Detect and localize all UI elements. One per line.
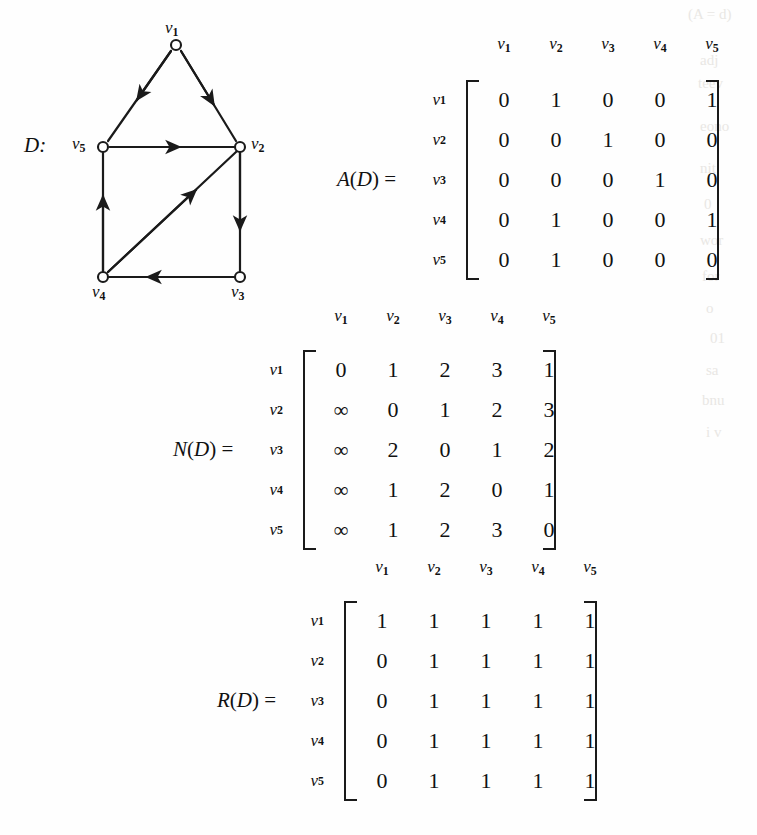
matrix-R-colhead-3: v3: [460, 557, 512, 579]
matrix-A-cell: 0: [530, 120, 582, 160]
matrix-R-cell: 1: [564, 681, 616, 721]
matrix-N-cell: ∞: [315, 430, 367, 470]
matrix-N-rowhead-4: v4: [241, 470, 283, 510]
matrix-A-cell: 1: [634, 160, 686, 200]
matrix-A-cell: 1: [530, 240, 582, 280]
matrix-A-row: 0 1 0 0 1: [478, 200, 738, 240]
matrix-N-cell: 1: [523, 350, 575, 390]
matrix-R-rowhead-1: v1: [282, 601, 324, 641]
matrix-R-rowhead-2: v2: [282, 641, 324, 681]
matrix-A-colhead-1: v1: [478, 34, 530, 56]
matrix-A-column-headers: v1 v2 v3 v4 v5: [478, 34, 738, 56]
vertex-label-v2: v2: [251, 134, 265, 156]
matrix-N-cell: 1: [471, 430, 523, 470]
matrix-R-cell: 1: [564, 641, 616, 681]
matrix-A-cell: 0: [634, 240, 686, 280]
matrix-A-cell: 0: [634, 80, 686, 120]
matrix-N-cell: 3: [471, 350, 523, 390]
bleed-through-text: i v: [706, 424, 721, 441]
matrix-R-cell: 1: [512, 721, 564, 761]
figure-page: (A = d) adj teev eono nit 0 wor for o 01…: [0, 0, 757, 835]
matrix-N-column-headers: v1 v2 v3 v4 v5: [315, 306, 575, 328]
matrix-A-grid: 0 1 0 0 1 0 0 1 0 0 0 0 0 1 0 0: [478, 80, 738, 280]
matrix-N-cell: ∞: [315, 470, 367, 510]
matrix-R-cell: 0: [356, 761, 408, 801]
matrix-R-rowhead-3: v3: [282, 681, 324, 721]
matrix-R-cell: 1: [564, 761, 616, 801]
matrix-A-rowhead-1: v1: [404, 80, 446, 120]
matrix-A-colhead-2: v2: [530, 34, 582, 56]
matrix-R-cell: 1: [460, 681, 512, 721]
digraph-figure: D:: [0, 0, 320, 310]
matrix-R-cell: 1: [408, 681, 460, 721]
matrix-R-row-headers: v1 v2 v3 v4 v5: [282, 601, 324, 801]
matrix-A-cell: 0: [634, 200, 686, 240]
matrix-A-cell: 0: [686, 120, 738, 160]
vertex-v3: [235, 272, 245, 282]
matrix-A-row-headers: v1 v2 v3 v4 v5: [404, 80, 446, 280]
matrix-N-row: ∞ 1 2 0 1: [315, 470, 575, 510]
matrix-R-cell: 1: [512, 601, 564, 641]
matrix-N-cell: 1: [367, 470, 419, 510]
matrix-N-cell: 2: [523, 430, 575, 470]
matrix-R-cell: 1: [408, 761, 460, 801]
matrix-R-cell: 0: [356, 721, 408, 761]
bleed-through-text: (A = d): [688, 6, 731, 23]
bleed-through-text: 01: [710, 330, 725, 347]
matrix-N-colhead-1: v1: [315, 306, 367, 328]
matrix-R-name: R(D) =: [217, 688, 276, 713]
bleed-through-text: sa: [706, 362, 719, 379]
matrix-R-cell: 1: [408, 641, 460, 681]
matrix-N-cell: 3: [523, 390, 575, 430]
matrix-R-cell: 1: [564, 601, 616, 641]
matrix-N-cell: 0: [523, 510, 575, 550]
matrix-N-grid: 0 1 2 3 1 ∞ 0 1 2 3 ∞ 2 0 1 2 ∞: [315, 350, 575, 550]
matrix-A-cell: 1: [530, 200, 582, 240]
matrix-A-cell: 0: [582, 80, 634, 120]
matrix-N-cell: 1: [367, 510, 419, 550]
matrix-A-cell: 0: [478, 80, 530, 120]
matrix-R-cell: 1: [460, 761, 512, 801]
matrix-R-cell: 1: [460, 601, 512, 641]
matrix-N-cell: 3: [471, 510, 523, 550]
matrix-A-cell: 0: [478, 240, 530, 280]
vertex-label-v3: v3: [231, 282, 245, 304]
matrix-A-cell: 0: [478, 120, 530, 160]
edge-arrow-v1-v5: [137, 51, 171, 100]
matrix-A-rowhead-5: v5: [404, 240, 446, 280]
matrix-N-cell: 0: [315, 350, 367, 390]
bleed-through-text: o: [706, 300, 714, 317]
matrix-N-cell: 1: [523, 470, 575, 510]
matrix-A-cell: 0: [582, 160, 634, 200]
matrix-N-cell: 2: [419, 470, 471, 510]
matrix-N-cell: ∞: [315, 510, 367, 550]
matrix-A-rowhead-4: v4: [404, 200, 446, 240]
vertex-v1: [171, 40, 181, 50]
matrix-R-colhead-5: v5: [564, 557, 616, 579]
matrix-N-cell: ∞: [315, 390, 367, 430]
matrix-A-cell: 0: [686, 160, 738, 200]
matrix-A-cell: 0: [582, 200, 634, 240]
vertex-v2: [235, 142, 245, 152]
matrix-R-rowhead-5: v5: [282, 761, 324, 801]
matrix-R-column-headers: v1 v2 v3 v4 v5: [356, 557, 616, 579]
matrix-R-row: 1 1 1 1 1: [356, 601, 616, 641]
matrix-R-cell: 0: [356, 641, 408, 681]
vertex-label-v4: v4: [92, 282, 106, 304]
matrix-A-cell: 0: [634, 120, 686, 160]
matrix-N-colhead-5: v5: [523, 306, 575, 328]
edge-arrow-v4-v2: [108, 190, 196, 272]
matrix-R-cell: 1: [460, 721, 512, 761]
matrix-R-colhead-2: v2: [408, 557, 460, 579]
matrix-N-row: ∞ 1 2 3 0: [315, 510, 575, 550]
matrix-R-row: 0 1 1 1 1: [356, 761, 616, 801]
matrix-N-cell: 1: [419, 390, 471, 430]
matrix-R-colhead-4: v4: [512, 557, 564, 579]
matrix-A-cell: 0: [530, 160, 582, 200]
matrix-R-cell: 1: [356, 601, 408, 641]
matrix-N-name: N(D) =: [173, 437, 233, 462]
matrix-N-rowhead-5: v5: [241, 510, 283, 550]
matrix-N-row: ∞ 2 0 1 2: [315, 430, 575, 470]
matrix-R-cell: 1: [512, 641, 564, 681]
vertex-label-v5: v5: [72, 134, 86, 156]
